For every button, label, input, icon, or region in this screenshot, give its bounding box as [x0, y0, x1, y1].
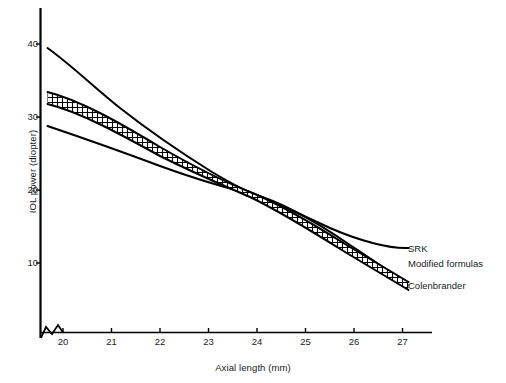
x-tick-label-21: 21 — [100, 336, 124, 347]
y-tick-label-40: 40 — [12, 38, 38, 49]
x-tick-label-24: 24 — [245, 336, 269, 347]
colenbrander-curve — [48, 126, 409, 285]
x-axis-title: Axial length (mm) — [0, 362, 506, 373]
modified-formulas-lower-bound — [48, 104, 409, 290]
chart-figure: 40 30 20 10 20 21 22 23 24 25 26 27 Axia… — [0, 0, 506, 383]
x-tick-label-25: 25 — [294, 336, 318, 347]
x-tick-label-20: 20 — [51, 336, 75, 347]
y-axis-title: IOL power (diopter) — [27, 92, 38, 252]
legend-label-colenbrander: Colenbrander — [408, 280, 466, 291]
modified-formulas-band-fill — [40, 80, 420, 305]
legend-label-modified-formulas: Modified formulas — [408, 258, 483, 269]
y-tick-label-10: 10 — [12, 257, 38, 268]
x-tick-label-27: 27 — [391, 336, 415, 347]
x-tick-label-26: 26 — [342, 336, 366, 347]
x-tick-label-22: 22 — [148, 336, 172, 347]
srk-curve — [48, 48, 409, 248]
x-tick-label-23: 23 — [197, 336, 221, 347]
iol-power-vs-axial-length-plot — [0, 0, 506, 383]
legend-label-srk: SRK — [408, 243, 428, 254]
